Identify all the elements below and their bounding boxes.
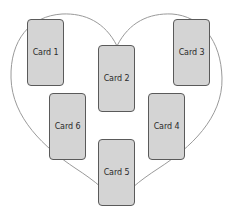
card-4-label: Card 4 — [154, 122, 180, 131]
card-1[interactable]: Card 1 — [27, 19, 64, 86]
card-5[interactable]: Card 5 — [98, 139, 135, 206]
card-2[interactable]: Card 2 — [98, 45, 135, 112]
card-3[interactable]: Card 3 — [173, 19, 210, 86]
card-4[interactable]: Card 4 — [148, 93, 185, 160]
card-3-label: Card 3 — [179, 48, 205, 57]
heart-card-spread: Card 1 Card 2 Card 3 Card 4 Card 5 Card … — [0, 0, 235, 220]
card-6[interactable]: Card 6 — [49, 93, 86, 160]
card-6-label: Card 6 — [55, 122, 81, 131]
card-5-label: Card 5 — [104, 168, 130, 177]
card-2-label: Card 2 — [104, 74, 130, 83]
card-1-label: Card 1 — [33, 48, 59, 57]
